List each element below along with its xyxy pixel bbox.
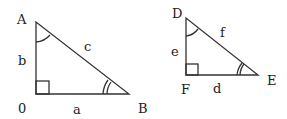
- triangle1-angle-a-arc: [36, 35, 50, 42]
- side-label-f: f: [220, 25, 226, 40]
- vertex-label-f: F: [181, 82, 190, 97]
- vertex-label-a: A: [16, 12, 27, 27]
- triangle-abo: A b c 0 a B: [16, 12, 148, 117]
- vertex-label-d: D: [172, 6, 182, 21]
- similar-triangles-diagram: A b c 0 a B D f e F d E: [0, 0, 287, 119]
- vertex-label-e: E: [267, 73, 277, 88]
- triangle1-angle-b-arc-inner: [107, 82, 111, 94]
- triangle2-angle-d-arc: [186, 29, 198, 36]
- vertex-label-0: 0: [18, 101, 26, 116]
- vertex-label-b: B: [138, 101, 148, 116]
- side-label-c: c: [84, 39, 91, 54]
- triangle-def: D f e F d E: [171, 6, 277, 97]
- triangle1-outline: [36, 22, 129, 94]
- triangle2-right-angle-mark: [186, 64, 198, 75]
- side-label-a: a: [73, 102, 81, 117]
- triangle1-right-angle-mark: [36, 81, 49, 94]
- side-label-e: e: [171, 44, 179, 59]
- side-label-b: b: [18, 53, 26, 68]
- side-label-d: d: [213, 81, 221, 96]
